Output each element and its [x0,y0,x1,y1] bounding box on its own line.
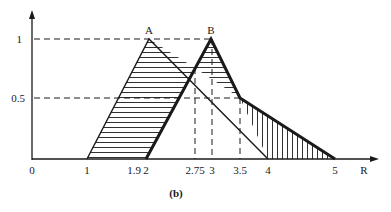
x-tick-3: 3 [209,164,215,176]
y-tick-1: 1 [17,33,23,45]
fuzzy-membership-diagram: 1 0.5 A B 0 1 1.9 2 2.75 3 3.5 4 5 R (b) [0,0,391,212]
x-axis-label: R [360,164,368,176]
x-tick-2-75: 2.75 [185,164,205,176]
hatch-region-b-top [195,39,240,98]
y-axis-arrow-icon [29,10,35,19]
x-tick-4: 4 [265,164,271,176]
x-axis-arrow-icon [370,156,379,162]
x-tick-1: 1 [84,164,90,176]
peak-label-b: B [207,24,214,36]
x-tick-2: 2 [143,164,149,176]
x-tick-3-5: 3.5 [233,164,247,176]
x-tick-5: 5 [332,164,338,176]
x-tick-1-9: 1.9 [127,164,141,176]
y-tick-0-5: 0.5 [11,92,25,104]
peak-label-a: A [145,24,153,36]
figure-caption: (b) [169,187,183,200]
x-tick-0: 0 [29,164,35,176]
